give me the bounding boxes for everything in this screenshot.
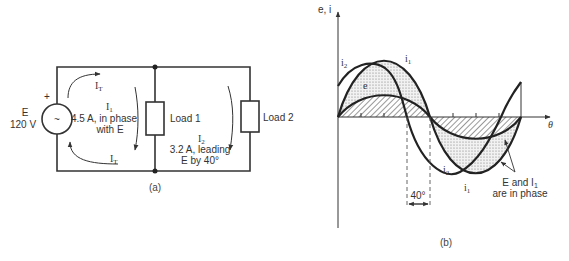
i1-value: 4.5 A, in phase <box>71 113 138 124</box>
load-2-label: Load 2 <box>263 112 294 123</box>
i1-curve-label-top: i1 <box>405 53 412 66</box>
figure: ~ + E 120 V Load 1 Load 2 IT IT I1 4.5 A… <box>0 0 569 261</box>
load-1-label: Load 1 <box>170 113 201 124</box>
waveform-graph: e, i θ i2 i1 e i2 i1 40° E and I1 are in… <box>318 4 553 248</box>
source-name: E <box>22 107 29 118</box>
i2-value: 3.2 A, leading <box>170 144 231 155</box>
wire-top <box>57 67 250 104</box>
junction-node-top <box>153 65 158 70</box>
svg-text:~: ~ <box>54 114 60 125</box>
e-curve-label: e <box>363 80 368 91</box>
circuit-diagram: ~ + E 120 V Load 1 Load 2 IT IT I1 4.5 A… <box>10 65 294 194</box>
y-axis-label: e, i <box>318 4 331 15</box>
waveform-caption: (b) <box>440 237 452 248</box>
i1-curve-label-bottom: i1 <box>464 182 471 195</box>
i2-phase-note: E by 40° <box>181 155 219 166</box>
i1-phase-note: with E <box>95 124 124 135</box>
i2-curve-label-bottom: i2 <box>443 164 450 177</box>
i2-curve-label-top: i2 <box>341 57 348 70</box>
source-voltage: 120 V <box>10 119 36 130</box>
circuit-caption: (a) <box>149 182 161 193</box>
phase-angle-label: 40° <box>410 190 425 201</box>
ac-source-icon: ~ <box>42 104 72 134</box>
junction-node-bottom <box>153 169 158 174</box>
source-polarity-plus: + <box>44 91 50 102</box>
annotation-pointer-2 <box>501 162 515 172</box>
i2-arrow <box>228 86 233 150</box>
it-top-label: IT <box>95 80 103 93</box>
x-axis-label: θ <box>548 119 553 130</box>
annotation-line-2: are in phase <box>492 188 547 199</box>
load-1-box <box>146 102 164 135</box>
load-2-box <box>241 101 259 132</box>
